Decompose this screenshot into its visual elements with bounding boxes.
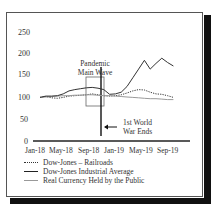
legend-swatch-solid	[24, 171, 38, 172]
x-tick-sep18: Sep-18	[78, 146, 99, 155]
legend-label: Dow-Jones – Railroads	[43, 158, 113, 167]
chart-legend: Dow-Jones – Railroads Dow-Jones Industri…	[24, 158, 144, 185]
legend-label: Real Currency Held by the Public	[43, 176, 144, 185]
war-label-line2: War Ends	[123, 127, 152, 136]
x-axis-labels: Jan-18 May-18 Sep-18 Jan-19 May-19 Sep-1…	[25, 146, 178, 155]
y-tick-200: 200	[18, 49, 30, 58]
x-tick-jan19: Jan-19	[104, 146, 124, 155]
y-axis-labels: 250 200 150 100 50 0	[18, 28, 30, 146]
x-tick-may19: May-19	[129, 146, 153, 155]
legend-item-railroads: Dow-Jones – Railroads	[24, 158, 144, 167]
legend-item-djia: Dow-Jones Industrial Average	[24, 167, 144, 176]
legend-swatch-dotted	[24, 162, 38, 163]
y-tick-50: 50	[20, 115, 28, 124]
x-tick-may18: May-18	[49, 146, 73, 155]
y-tick-150: 150	[18, 70, 30, 79]
series-currency	[40, 95, 173, 100]
pandemic-label-line1: Pandemic	[80, 59, 110, 68]
legend-swatch-light	[24, 180, 38, 181]
x-tick-jan18: Jan-18	[25, 146, 45, 155]
legend-item-currency: Real Currency Held by the Public	[24, 176, 144, 185]
x-tick-sep19: Sep-19	[157, 146, 178, 155]
legend-label: Dow-Jones Industrial Average	[43, 167, 134, 176]
war-label-line1: 1st World	[123, 118, 152, 127]
y-tick-0: 0	[24, 137, 28, 146]
arrow-head-icon	[104, 125, 108, 130]
y-tick-250: 250	[18, 28, 30, 37]
series-railroads	[40, 90, 173, 99]
y-tick-100: 100	[18, 93, 30, 102]
pandemic-label-line2: Main Wave	[78, 68, 113, 77]
